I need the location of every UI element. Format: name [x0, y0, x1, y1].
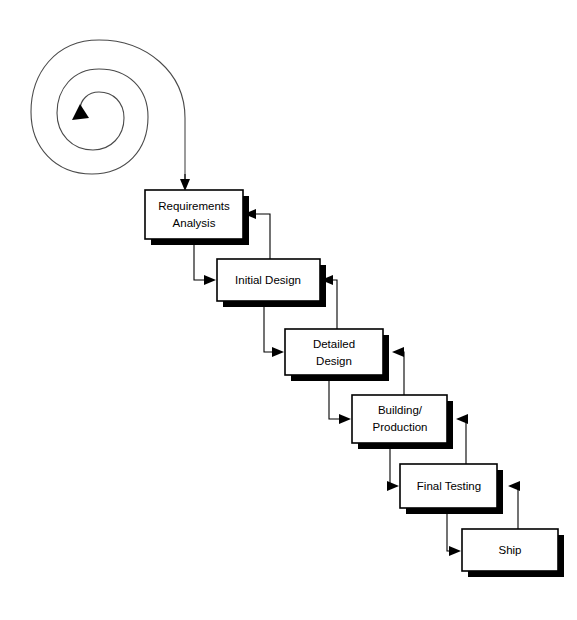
feedback-arrowhead-building-production — [456, 414, 468, 424]
stage-label-line-1: Building/ — [378, 404, 423, 416]
spiral-curve — [31, 40, 185, 188]
box-body — [352, 395, 447, 443]
stage-label-line-2: Design — [316, 355, 352, 367]
stage-label-line-2: Analysis — [173, 217, 216, 229]
forward-line-detailed-to-building — [329, 375, 343, 419]
diagram-canvas: Requirements Analysis Initial Design Det… — [0, 0, 577, 620]
forward-line-building-to-final — [390, 443, 391, 486]
stage-box-group: Requirements Analysis Initial Design Det… — [145, 190, 564, 577]
stage-label-line-2: Production — [373, 421, 428, 433]
feedback-line-ship-to-final — [516, 486, 518, 529]
forward-arrowhead-building-production — [339, 414, 351, 424]
stage-label-line-1: Detailed — [313, 338, 355, 350]
forward-arrowhead-initial-design — [204, 275, 216, 285]
stage-label-line-1: Initial Design — [235, 274, 301, 286]
forward-arrowhead-ship — [449, 546, 461, 556]
feedback-line-final-to-building — [464, 419, 466, 464]
feedback-line-initial-to-requirements — [252, 214, 270, 259]
forward-line-requirements-to-initial — [194, 239, 208, 280]
box-body — [285, 329, 383, 375]
stage-box-final-testing[interactable]: Final Testing — [400, 464, 503, 514]
stage-label-line-1: Final Testing — [417, 480, 481, 492]
stage-box-initial-design[interactable]: Initial Design — [217, 259, 326, 307]
feedback-arrowhead-detailed-design — [392, 347, 404, 357]
box-body — [145, 190, 243, 239]
forward-arrowhead-final-testing — [387, 481, 399, 491]
spiral-arrowhead — [72, 104, 89, 120]
stage-box-requirements-analysis[interactable]: Requirements Analysis — [145, 190, 249, 245]
stage-box-building-production[interactable]: Building/ Production — [352, 395, 453, 449]
feedback-arrowhead-final-testing — [508, 481, 520, 491]
forward-line-initial-to-detailed — [264, 301, 276, 352]
forward-arrowhead-detailed-design — [272, 347, 284, 357]
stage-box-detailed-design[interactable]: Detailed Design — [285, 329, 389, 381]
stage-label-line-1: Requirements — [158, 200, 230, 212]
feedback-line-detailed-to-initial — [329, 280, 337, 329]
forward-line-final-to-ship — [447, 508, 453, 551]
stage-box-ship[interactable]: Ship — [462, 529, 564, 577]
waterfall-diagram: Requirements Analysis Initial Design Det… — [0, 0, 577, 620]
stage-label-line-1: Ship — [498, 544, 521, 556]
feedback-line-building-to-detailed — [400, 352, 404, 395]
spiral-to-requirements-arrowhead — [180, 179, 190, 191]
iteration-spiral — [31, 40, 185, 188]
